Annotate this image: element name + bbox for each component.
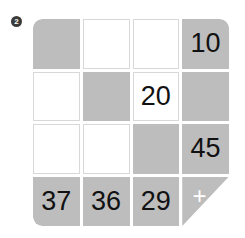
grid-cell-value: 37 bbox=[41, 186, 71, 217]
grid-cell-r4c4-operation: + bbox=[182, 177, 229, 227]
grid-cell-value: 29 bbox=[141, 186, 171, 217]
grid-cell-r2c4[interactable] bbox=[182, 72, 229, 122]
grid-cell-r4c3[interactable]: 29 bbox=[133, 177, 180, 227]
grid-cell-r2c3[interactable]: 20 bbox=[133, 72, 180, 122]
number-grid: 10 20 45 37 36 bbox=[33, 19, 229, 226]
question-number-badge: 2 bbox=[11, 16, 22, 27]
grid-cell-r3c1[interactable] bbox=[33, 124, 80, 174]
grid-cell-value: 20 bbox=[141, 81, 171, 112]
grid-cell-value: 36 bbox=[91, 186, 121, 217]
grid-cell-r4c1[interactable]: 37 bbox=[33, 177, 80, 227]
grid-cell-r3c3[interactable] bbox=[133, 124, 180, 174]
grid-cell-r1c1[interactable] bbox=[33, 19, 80, 69]
grid-cell-value: 45 bbox=[191, 133, 221, 164]
grid-cell-r3c2[interactable] bbox=[83, 124, 130, 174]
grid-cell-r4c2[interactable]: 36 bbox=[83, 177, 130, 227]
grid-cell-r2c1[interactable] bbox=[33, 72, 80, 122]
grid-cell-r1c3[interactable] bbox=[133, 19, 180, 69]
grid-cell-value: 10 bbox=[191, 28, 221, 59]
grid-cell-r2c2[interactable] bbox=[83, 72, 130, 122]
grid-cell-r3c4[interactable]: 45 bbox=[182, 124, 229, 174]
grid-cell-r1c2[interactable] bbox=[83, 19, 130, 69]
plus-icon: + bbox=[193, 184, 207, 208]
worksheet-exercise: 2 10 20 bbox=[0, 0, 245, 238]
grid-cell-r1c4[interactable]: 10 bbox=[182, 19, 229, 69]
